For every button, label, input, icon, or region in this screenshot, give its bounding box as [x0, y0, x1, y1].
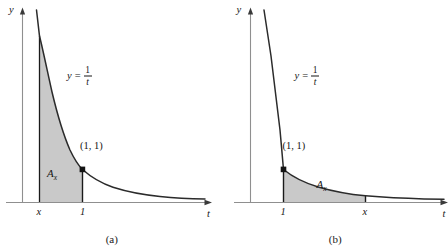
- t-axis-arrowhead: [205, 200, 213, 205]
- equation-equals: =: [74, 71, 82, 82]
- y-axis-arrowhead: [20, 8, 25, 15]
- area-label: Ax: [47, 168, 57, 182]
- y-axis-label: y: [9, 5, 14, 16]
- y-axis-arrowhead: [247, 8, 252, 15]
- t-axis-label: t: [207, 209, 210, 220]
- equation-lhs: y: [67, 71, 72, 82]
- t-axis-label: t: [443, 209, 446, 220]
- area-label-subscript: x: [323, 184, 326, 193]
- area-label-main: A: [47, 167, 54, 179]
- tick-label-x: x: [363, 207, 368, 218]
- t-axis-arrowhead: [440, 200, 448, 205]
- y-axis-label: y: [237, 5, 242, 16]
- equation-fraction: 1 t: [311, 66, 319, 87]
- panel-b-graph: [224, 0, 448, 247]
- panel-a-graph: [0, 0, 223, 247]
- point-marker-1-1: [80, 167, 86, 173]
- tick-label-1: 1: [281, 207, 286, 218]
- equation-label: y = 1 t: [295, 66, 320, 87]
- equation-label: y = 1 t: [67, 66, 92, 87]
- equation-fraction: 1 t: [84, 66, 92, 87]
- panel-a: y t y = 1 t (1, 1) Ax x 1 (a): [0, 0, 224, 247]
- area-label: Ax: [317, 179, 327, 193]
- hyperbola-curve: [264, 10, 444, 199]
- panel-a-caption: (a): [0, 233, 224, 245]
- fraction-denominator: t: [86, 77, 89, 87]
- point-label: (1, 1): [283, 141, 306, 152]
- area-label-subscript: x: [54, 173, 57, 182]
- fraction-numerator: 1: [85, 66, 90, 76]
- panel-b: y t y = 1 t (1, 1) Ax 1 x (b): [224, 0, 448, 247]
- fraction-numerator: 1: [313, 66, 318, 76]
- panel-b-caption: (b): [224, 233, 448, 245]
- tick-label-1: 1: [80, 207, 85, 218]
- point-label: (1, 1): [80, 141, 103, 152]
- fraction-denominator: t: [314, 77, 317, 87]
- point-marker-1-1: [280, 167, 286, 173]
- equation-lhs: y: [295, 71, 300, 82]
- tick-label-x: x: [37, 207, 42, 218]
- equation-equals: =: [301, 71, 309, 82]
